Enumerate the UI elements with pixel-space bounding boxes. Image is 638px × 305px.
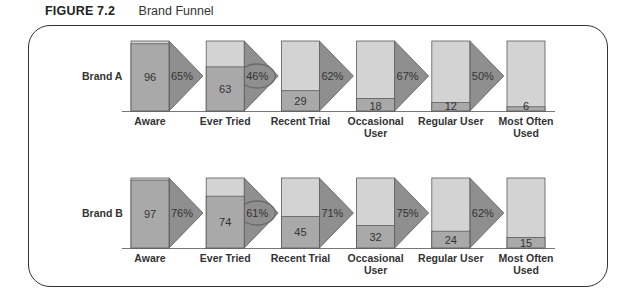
stage-label: Ever Tried	[200, 252, 251, 264]
stage-value: 74	[219, 216, 231, 228]
stage-label: Most Often	[499, 115, 554, 127]
stage-value: 6	[523, 100, 529, 112]
brand-row: Brand A65%96Aware46%63Ever Tried62%29Rec…	[82, 41, 555, 139]
stage-value: 18	[369, 100, 381, 112]
conversion-rate: 76%	[171, 207, 193, 219]
conversion-rate: 75%	[397, 207, 419, 219]
stage-label: Recent Trial	[271, 115, 331, 127]
stage-label: Ever Tried	[200, 115, 251, 127]
stage-value: 45	[294, 226, 306, 238]
stage-value: 29	[294, 95, 306, 107]
brand-funnel-diagram: Brand A65%96Aware46%63Ever Tried62%29Rec…	[0, 0, 638, 305]
stage-label: Most Often	[499, 252, 554, 264]
stage-label: User	[364, 127, 387, 139]
conversion-rate: 46%	[246, 70, 268, 82]
stage-value: 97	[144, 208, 156, 220]
stage-value: 12	[445, 100, 457, 112]
brand-row: Brand B76%97Aware61%74Ever Tried71%45Rec…	[82, 178, 555, 276]
stage-label: Aware	[134, 252, 165, 264]
stage-label: Recent Trial	[271, 252, 331, 264]
stage-label: Aware	[134, 115, 165, 127]
stage-value: 15	[520, 237, 532, 249]
conversion-rate: 62%	[472, 207, 494, 219]
stage-label: Occasional	[348, 252, 404, 264]
stage-label: Used	[513, 127, 539, 139]
stage-value: 96	[144, 71, 156, 83]
brand-label: Brand B	[82, 207, 123, 219]
stage-value: 24	[445, 234, 457, 246]
stage-label: Used	[513, 264, 539, 276]
brand-label: Brand A	[82, 70, 123, 82]
conversion-rate: 62%	[321, 70, 343, 82]
conversion-rate: 71%	[321, 207, 343, 219]
stage-value: 63	[219, 83, 231, 95]
conversion-rate: 61%	[246, 207, 268, 219]
conversion-rate: 50%	[472, 70, 494, 82]
conversion-rate: 65%	[171, 70, 193, 82]
conversion-rate: 67%	[397, 70, 419, 82]
stage-label: User	[364, 264, 387, 276]
stage-label: Regular User	[418, 115, 483, 127]
stage-label: Regular User	[418, 252, 483, 264]
stage-label: Occasional	[348, 115, 404, 127]
stage-value: 32	[369, 231, 381, 243]
